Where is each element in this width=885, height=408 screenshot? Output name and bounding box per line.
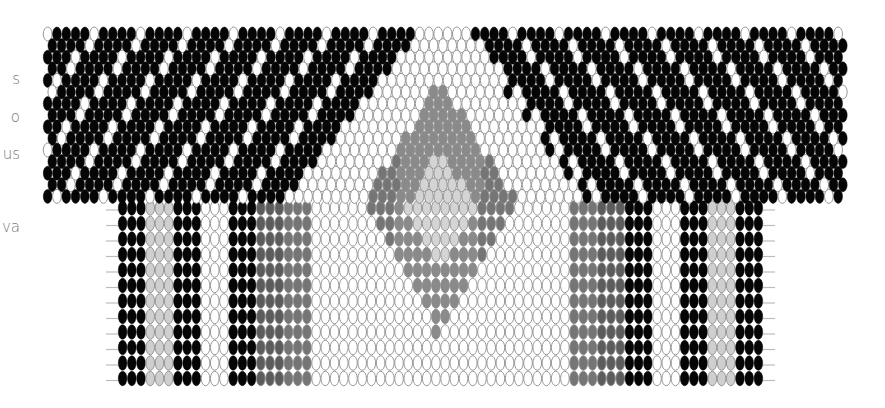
bead-lower xyxy=(413,247,422,262)
bead-lower xyxy=(118,356,127,371)
bead-lower xyxy=(266,263,275,278)
bead-top xyxy=(648,189,657,203)
bead-lower xyxy=(505,309,514,324)
bead-top xyxy=(685,189,694,203)
bead-lower xyxy=(404,216,413,231)
bead-lower xyxy=(533,371,542,386)
bead-lower xyxy=(570,340,579,355)
bead-lower xyxy=(542,216,551,231)
bead-lower xyxy=(662,247,671,262)
bead-lower xyxy=(542,356,551,371)
bead-lower xyxy=(293,371,302,386)
bead-top xyxy=(267,189,276,203)
bead-lower xyxy=(708,216,717,231)
bead-top xyxy=(229,189,238,203)
bead-top xyxy=(239,189,248,203)
bead-lower xyxy=(450,278,459,293)
bead-lower xyxy=(432,340,441,355)
bead-lower xyxy=(699,356,708,371)
bead-lower xyxy=(505,232,514,247)
bead-lower xyxy=(201,247,210,262)
bead-lower xyxy=(413,294,422,309)
bead-top xyxy=(676,189,685,203)
bead-lower xyxy=(284,325,293,340)
bead-lower xyxy=(376,278,385,293)
bead-lower xyxy=(524,232,533,247)
bead-lower xyxy=(321,371,330,386)
bead-lower xyxy=(745,232,754,247)
bead-lower xyxy=(653,340,662,355)
bead-lower xyxy=(229,340,238,355)
bead-lower xyxy=(699,247,708,262)
bead-lower xyxy=(579,216,588,231)
bead-lower xyxy=(275,278,284,293)
bead-lower xyxy=(690,294,699,309)
bead-lower xyxy=(754,371,763,386)
bead-lower xyxy=(644,216,653,231)
bead-lower xyxy=(220,309,229,324)
bead-lower xyxy=(118,278,127,293)
bead-lower xyxy=(284,340,293,355)
bead-lower xyxy=(597,263,606,278)
bead-top xyxy=(601,189,610,203)
bead-lower xyxy=(367,371,376,386)
bead-lower xyxy=(542,371,551,386)
bead-lower xyxy=(201,371,210,386)
bead-lower xyxy=(616,278,625,293)
bead-lower xyxy=(367,232,376,247)
bead-lower xyxy=(487,371,496,386)
bead-lower xyxy=(146,216,155,231)
bead-lower xyxy=(607,278,616,293)
bead-lower xyxy=(183,356,192,371)
bead-lower xyxy=(118,309,127,324)
bead-lower xyxy=(634,263,643,278)
bead-lower xyxy=(210,340,219,355)
bead-lower xyxy=(210,232,219,247)
bead-lower xyxy=(210,325,219,340)
bead-lower xyxy=(625,216,634,231)
bead-lower xyxy=(487,356,496,371)
bead-lower xyxy=(505,278,514,293)
bead-lower xyxy=(726,309,735,324)
bead-lower xyxy=(726,294,735,309)
bead-pattern-chart xyxy=(0,0,885,408)
bead-lower xyxy=(726,325,735,340)
bead-lower xyxy=(376,340,385,355)
bead-lower xyxy=(146,371,155,386)
bead-lower xyxy=(339,232,348,247)
bead-lower xyxy=(137,278,146,293)
bead-lower xyxy=(386,325,395,340)
bead-lower xyxy=(257,247,266,262)
bead-lower xyxy=(690,216,699,231)
bead-lower xyxy=(597,371,606,386)
bead-lower xyxy=(625,356,634,371)
bead-lower xyxy=(515,371,524,386)
bead-lower xyxy=(386,340,395,355)
bead-top xyxy=(304,189,313,203)
bead-lower xyxy=(238,294,247,309)
bead-lower xyxy=(201,340,210,355)
bead-lower xyxy=(459,340,468,355)
bead-lower xyxy=(441,232,450,247)
bead-lower xyxy=(736,294,745,309)
bead-lower xyxy=(266,278,275,293)
bead-lower xyxy=(137,294,146,309)
bead-lower xyxy=(164,232,173,247)
bead-lower xyxy=(570,309,579,324)
bead-lower xyxy=(496,263,505,278)
bead-lower xyxy=(680,356,689,371)
bead-lower xyxy=(524,309,533,324)
bead-lower xyxy=(422,216,431,231)
bead-lower xyxy=(441,371,450,386)
bead-lower xyxy=(450,232,459,247)
bead-lower xyxy=(662,340,671,355)
bead-top xyxy=(480,189,489,203)
bead-lower xyxy=(708,340,717,355)
bead-top xyxy=(118,189,127,203)
bead-lower xyxy=(487,216,496,231)
bead-lower xyxy=(128,263,137,278)
bead-lower xyxy=(690,356,699,371)
bead-lower xyxy=(137,356,146,371)
bead-lower xyxy=(395,294,404,309)
bead-lower xyxy=(459,325,468,340)
